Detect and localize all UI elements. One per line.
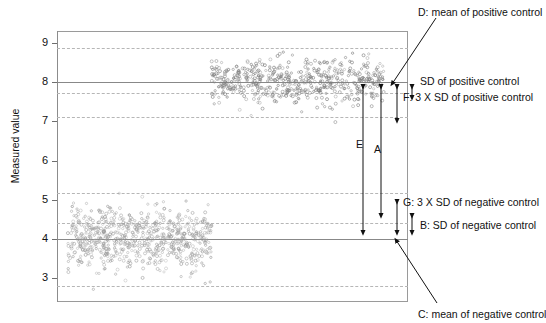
callout-b-label: B: SD of negative control [420, 219, 536, 231]
chart-root: 3456789 Measured value [0, 0, 546, 323]
callout-c-label: C: mean of negative control [418, 308, 546, 320]
callout-sd-positive-label: SD of positive control [420, 75, 519, 87]
annotation-layer [0, 0, 546, 323]
leader-line-c [396, 240, 437, 303]
callout-d-label: D: mean of positive control [418, 6, 542, 18]
label-e: E [356, 138, 363, 150]
callout-f-label: F: 3 X SD of positive control [403, 91, 533, 103]
label-a: A [374, 143, 381, 155]
callout-g-label: G: 3 X SD of negative control [403, 196, 539, 208]
